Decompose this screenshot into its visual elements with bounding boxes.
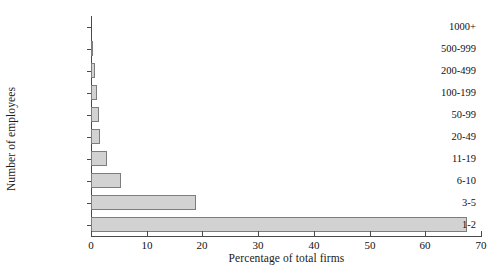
x-tick-mark [91, 231, 92, 236]
x-axis-line [91, 236, 482, 237]
bar-500-999 [91, 41, 93, 56]
y-tick-label-6-10: 6-10 [356, 175, 476, 186]
y-tick-mark [87, 203, 91, 204]
y-tick-label-50-99: 50-99 [356, 109, 476, 120]
bar-50-99 [91, 107, 99, 122]
y-tick-mark [87, 181, 91, 182]
y-tick-mark [87, 115, 91, 116]
bar-6-10 [91, 173, 121, 188]
y-tick-mark [87, 93, 91, 94]
bar-11-19 [91, 151, 107, 166]
y-tick-label-20-49: 20-49 [356, 131, 476, 142]
bar-20-49 [91, 129, 100, 144]
y-tick-label-200-499: 200-499 [356, 65, 476, 76]
x-tick-label-40: 40 [294, 239, 334, 251]
x-tick-label-20: 20 [182, 239, 222, 251]
y-tick-mark [87, 27, 91, 28]
y-tick-label-11-19: 11-19 [356, 153, 476, 164]
y-tick-label-500-999: 500-999 [356, 43, 476, 54]
y-tick-label-1000+: 1000+ [356, 21, 476, 32]
bar-100-199 [91, 85, 97, 100]
x-tick-label-60: 60 [405, 239, 445, 251]
y-tick-mark [87, 49, 91, 50]
x-tick-mark [314, 231, 315, 236]
y-tick-mark [87, 71, 91, 72]
x-tick-mark [258, 231, 259, 236]
bar-200-499 [91, 63, 95, 78]
x-tick-label-30: 30 [238, 239, 278, 251]
bar-3-5 [91, 195, 196, 210]
bar-chart: Number of employees 1-23-56-1011-1920-49… [0, 0, 501, 278]
y-tick-mark [87, 159, 91, 160]
bar-1000+ [91, 19, 92, 34]
x-tick-mark [370, 231, 371, 236]
x-tick-mark [425, 231, 426, 236]
x-tick-label-10: 10 [127, 239, 167, 251]
y-tick-label-1-2: 1-2 [356, 219, 476, 230]
y-axis-title: Number of employees [0, 0, 22, 278]
x-tick-mark [147, 231, 148, 236]
x-axis-title: Percentage of total firms [91, 252, 482, 264]
x-tick-label-50: 50 [350, 239, 390, 251]
x-tick-mark [202, 231, 203, 236]
y-tick-label-3-5: 3-5 [356, 197, 476, 208]
y-tick-mark [87, 137, 91, 138]
y-tick-label-100-199: 100-199 [356, 87, 476, 98]
y-tick-mark [87, 225, 91, 226]
plot-area: 1-23-56-1011-1920-4950-99100-199200-4995… [91, 16, 481, 236]
x-tick-label-70: 70 [461, 239, 501, 251]
x-tick-mark [481, 231, 482, 236]
x-tick-label-0: 0 [71, 239, 111, 251]
